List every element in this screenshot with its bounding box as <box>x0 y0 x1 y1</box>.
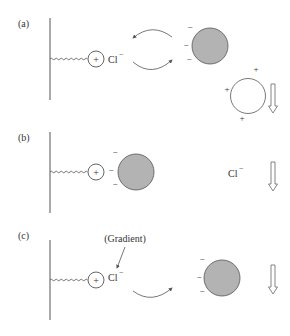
svg-text:−: − <box>119 268 124 277</box>
svg-text:+: + <box>253 64 258 74</box>
svg-text:Cl: Cl <box>108 272 118 283</box>
exchange-arrow-bottom-icon <box>133 60 172 70</box>
svg-text:+: + <box>93 275 99 286</box>
negative-particle: − − − <box>196 254 240 296</box>
gradient-annotation: (Gradient) <box>104 233 146 245</box>
panel-c: (c) + Cl − (Gradient) − − − <box>18 230 278 320</box>
chloride-ion-label: Cl − <box>228 164 244 179</box>
fixed-positive-charge: + <box>88 272 104 288</box>
svg-text:+: + <box>93 167 99 178</box>
svg-text:+: + <box>93 54 99 65</box>
tether-wave <box>50 171 88 173</box>
negative-particle: − − − <box>108 147 154 190</box>
fixed-positive-charge: + <box>88 164 104 180</box>
gradient-pointer-arrow-icon <box>117 247 125 268</box>
negative-particle: − − − <box>183 22 228 64</box>
svg-text:Cl: Cl <box>228 168 238 179</box>
svg-text:−: − <box>108 165 113 175</box>
svg-text:−: − <box>183 40 188 50</box>
panel-label: (b) <box>18 132 30 144</box>
positive-particle: + + + <box>224 64 265 123</box>
tether-wave <box>50 279 88 281</box>
tether-wave <box>50 58 88 60</box>
downward-flow-arrow-icon <box>269 265 278 294</box>
downward-flow-arrow-icon <box>269 162 278 191</box>
fixed-positive-charge: + <box>88 51 104 67</box>
svg-text:−: − <box>112 179 117 189</box>
svg-text:−: − <box>199 254 204 264</box>
release-arrow-icon <box>133 288 172 297</box>
downward-flow-arrow-icon <box>269 84 278 113</box>
svg-text:+: + <box>224 84 229 94</box>
svg-text:+: + <box>239 113 244 123</box>
svg-text:Cl: Cl <box>108 54 118 65</box>
chloride-ion-label: Cl − <box>108 268 124 283</box>
svg-text:−: − <box>119 50 124 59</box>
panel-a: (a) + Cl − − − − + + + <box>18 18 278 123</box>
svg-text:−: − <box>239 164 244 173</box>
exchange-arrow-top-icon <box>133 30 172 38</box>
svg-text:−: − <box>196 272 201 282</box>
svg-text:−: − <box>112 147 117 157</box>
svg-text:−: − <box>187 22 192 32</box>
svg-text:−: − <box>186 54 191 64</box>
ion-exchange-diagram: (a) + Cl − − − − + + + (b) <box>0 0 290 336</box>
panel-label: (a) <box>18 18 29 30</box>
chloride-ion-label: Cl − <box>108 50 124 65</box>
panel-b: (b) + − − − Cl − <box>18 132 278 213</box>
svg-text:−: − <box>199 286 204 296</box>
panel-label: (c) <box>18 230 29 242</box>
